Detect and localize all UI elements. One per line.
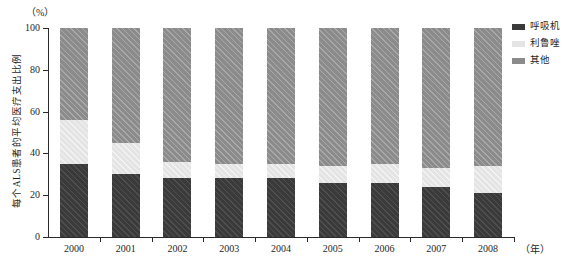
legend-item-0[interactable]: 呼吸机 [512, 19, 560, 34]
x-tick-label-2001: 2001 [103, 244, 149, 254]
bar-segment-ventilator [474, 193, 502, 237]
bar-segment-riluzole [422, 168, 450, 187]
legend-item-2[interactable]: 其他 [512, 53, 560, 68]
bar-segment-ventilator [215, 178, 243, 237]
bar-segment-ventilator [422, 187, 450, 237]
legend-label: 其他 [530, 56, 550, 66]
y-axis-unit-label: （%） [26, 8, 54, 18]
bar-2007 [422, 28, 450, 237]
bar-segment-riluzole [371, 164, 399, 183]
x-tick-label-2002: 2002 [154, 244, 200, 254]
bar-segment-other [112, 28, 140, 143]
legend-label: 呼吸机 [530, 22, 560, 32]
y-tick-mark [43, 28, 49, 29]
x-tick-label-2004: 2004 [258, 244, 304, 254]
bar-segment-ventilator [319, 183, 347, 237]
x-tick-mark [307, 237, 308, 242]
legend-label: 利鲁唑 [530, 39, 560, 49]
x-tick-label-2008: 2008 [465, 244, 511, 254]
bar-segment-other [371, 28, 399, 164]
y-tick-mark [43, 195, 49, 196]
legend: 呼吸机利鲁唑其他 [512, 19, 560, 70]
bar-segment-ventilator [60, 164, 88, 237]
x-axis-line [48, 237, 514, 238]
x-tick-mark [255, 237, 256, 242]
y-tick-label: 40 [8, 148, 40, 158]
bar-2003 [215, 28, 243, 237]
bar-segment-riluzole [319, 166, 347, 183]
x-tick-label-2007: 2007 [413, 244, 459, 254]
y-tick-label: 60 [8, 107, 40, 117]
bar-2000 [60, 28, 88, 237]
stacked-bar-chart: （%） （年） 每个ALS患者的平均医疗支出比例 020406080100 20… [0, 0, 567, 265]
x-tick-mark [100, 237, 101, 242]
bar-segment-ventilator [163, 178, 191, 237]
y-tick-mark [43, 153, 49, 154]
bar-segment-riluzole [112, 143, 140, 174]
bar-segment-other [267, 28, 295, 164]
legend-swatch-icon [512, 24, 525, 30]
bar-segment-ventilator [112, 174, 140, 237]
bar-2001 [112, 28, 140, 237]
x-tick-mark [514, 237, 515, 242]
x-tick-label-2006: 2006 [362, 244, 408, 254]
x-tick-mark [359, 237, 360, 242]
x-tick-mark [152, 237, 153, 242]
bar-segment-other [215, 28, 243, 164]
bar-segment-riluzole [474, 166, 502, 193]
x-tick-label-2003: 2003 [206, 244, 252, 254]
x-tick-label-2005: 2005 [310, 244, 356, 254]
bar-2004 [267, 28, 295, 237]
legend-swatch-icon [512, 41, 525, 47]
bar-segment-riluzole [267, 164, 295, 179]
bar-segment-other [163, 28, 191, 162]
x-tick-mark [410, 237, 411, 242]
bar-segment-other [60, 28, 88, 120]
bar-segment-riluzole [60, 120, 88, 164]
x-tick-label-2000: 2000 [51, 244, 97, 254]
bar-segment-other [319, 28, 347, 166]
y-axis-title: 每个ALS患者的平均医疗支出比例 [13, 21, 23, 241]
y-tick-label: 100 [8, 23, 40, 33]
y-tick-label: 0 [8, 232, 40, 242]
y-axis-line [48, 28, 49, 237]
y-tick-mark [43, 112, 49, 113]
x-axis-unit-label: （年） [520, 245, 550, 255]
y-tick-label: 20 [8, 190, 40, 200]
legend-swatch-icon [512, 58, 525, 64]
bar-segment-ventilator [267, 178, 295, 237]
x-tick-mark [203, 237, 204, 242]
bar-segment-other [422, 28, 450, 168]
bar-segment-other [474, 28, 502, 166]
bar-segment-riluzole [215, 164, 243, 179]
bar-2005 [319, 28, 347, 237]
bar-2002 [163, 28, 191, 237]
y-tick-mark [43, 70, 49, 71]
y-tick-label: 80 [8, 65, 40, 75]
bar-2006 [371, 28, 399, 237]
bar-2008 [474, 28, 502, 237]
y-tick-mark [43, 237, 49, 238]
x-tick-mark [462, 237, 463, 242]
bar-segment-riluzole [163, 162, 191, 179]
bar-segment-ventilator [371, 183, 399, 237]
legend-item-1[interactable]: 利鲁唑 [512, 36, 560, 51]
